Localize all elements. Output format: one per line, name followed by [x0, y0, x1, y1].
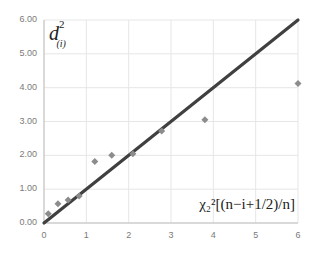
x-axis-label: χ₂²[(n−i+1/2)/n]: [199, 196, 295, 213]
x-tick-label: 3: [164, 230, 178, 240]
y-label-superscript: 2: [59, 18, 65, 30]
x-tick-label: 5: [249, 230, 263, 240]
y-axis-label: d2(i): [49, 22, 74, 47]
data-point-diamond: [201, 116, 208, 123]
y-tick-label: 6.00: [3, 14, 37, 24]
y-tick-label: 1.00: [3, 183, 37, 193]
y-tick-label: 2.00: [3, 149, 37, 159]
chart-container: 0.001.002.003.004.005.006.00 0123456 d2(…: [0, 0, 315, 253]
data-point-diamond: [108, 152, 115, 159]
x-tick-label: 2: [122, 230, 136, 240]
y-tick-label: 0.00: [3, 217, 37, 227]
x-tick-label: 6: [291, 230, 305, 240]
scatter-plot: [0, 0, 315, 253]
y-tick-label: 4.00: [3, 82, 37, 92]
data-point-diamond: [295, 80, 302, 87]
data-point-diamond: [91, 158, 98, 165]
x-tick-label: 0: [37, 230, 51, 240]
data-point-diamond: [54, 200, 61, 207]
y-label-subscript: (i): [57, 38, 66, 49]
x-tick-label: 4: [206, 230, 220, 240]
y-tick-label: 5.00: [3, 48, 37, 58]
x-tick-label: 1: [79, 230, 93, 240]
y-tick-label: 3.00: [3, 116, 37, 126]
